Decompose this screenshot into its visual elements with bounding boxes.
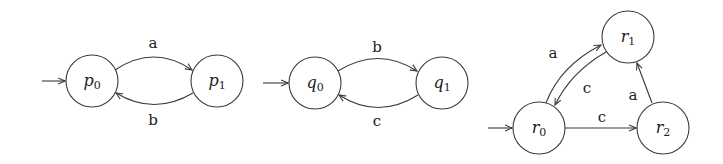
automata-diagram: a b p0 p1 b c q0 q1 a c c a r0 r1 (0, 0, 723, 164)
edge-label-r1-r0: c (583, 79, 591, 97)
edge-q0-q1 (338, 59, 417, 72)
edge-r1-r0 (555, 52, 606, 105)
edge-r2-r1 (637, 63, 652, 103)
edge-label-q1-q0: c (373, 112, 381, 130)
edge-label-r0-r1: a (549, 44, 558, 62)
automaton-q: b c q0 q1 (263, 38, 468, 130)
automaton-p: a b p0 p1 (42, 34, 243, 129)
edge-label-r0-r2: c (598, 108, 606, 126)
edge-p0-p1 (115, 57, 192, 70)
edge-label-p1-p0: b (148, 111, 158, 129)
edge-label-q0-q1: b (372, 38, 382, 56)
edge-label-p0-p1: a (149, 34, 158, 52)
automaton-r: a c c a r0 r1 r2 (488, 11, 689, 154)
edge-q1-q0 (339, 95, 418, 108)
edge-p1-p0 (116, 93, 193, 105)
edge-label-r2-r1: a (629, 86, 638, 104)
